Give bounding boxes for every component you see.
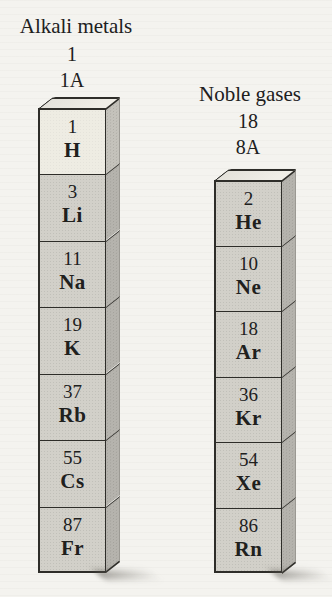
alkali-metals-title: Alkali metals [2, 14, 150, 39]
group-18-number: 18 [214, 109, 282, 134]
cell-side-face [106, 97, 120, 174]
element-cell-rb: 37 Rb [38, 374, 106, 440]
element-cell-na: 11 Na [38, 241, 106, 307]
element-cell-ne: 10 Ne [214, 246, 282, 312]
cell-side-face [106, 429, 120, 506]
element-cell-kr: 36 Kr [214, 377, 282, 443]
element-symbol: H [40, 138, 105, 163]
ground-shadow [270, 570, 332, 579]
element-cell-ar: 18 Ar [214, 311, 282, 377]
cell-side-face [106, 363, 120, 440]
atomic-number: 19 [40, 313, 105, 336]
element-symbol: Na [40, 270, 105, 295]
atomic-number: 55 [40, 446, 105, 469]
cell-side-face [282, 496, 296, 573]
element-symbol: Li [40, 203, 105, 228]
atomic-number: 2 [216, 187, 281, 210]
atomic-number: 54 [216, 448, 281, 471]
atomic-number: 86 [216, 514, 281, 537]
group-8a-label: 8A [214, 135, 282, 160]
group-1a-label: 1A [36, 68, 108, 93]
noble-gases-title: Noble gases [176, 82, 324, 107]
cell-side-face [106, 163, 120, 240]
cell-side-face [282, 300, 296, 377]
cell-side-face [106, 296, 120, 373]
atomic-number: 18 [216, 317, 281, 340]
element-symbol: Kr [216, 406, 281, 431]
element-cell-he: 2 He [214, 180, 282, 246]
element-symbol: He [216, 210, 281, 235]
element-symbol: Ar [216, 340, 281, 365]
alkali-metals-column: 1 H 3 Li 11 Na 19 K 37 Rb 55 Cs 87 Fr [38, 108, 106, 573]
group-1-number: 1 [36, 42, 108, 67]
element-cell-rn: 86 Rn [214, 508, 282, 574]
element-symbol: K [40, 336, 105, 361]
element-cell-li: 3 Li [38, 174, 106, 240]
atomic-number: 36 [216, 383, 281, 406]
atomic-number: 3 [40, 180, 105, 203]
atomic-number: 37 [40, 380, 105, 403]
element-cell-xe: 54 Xe [214, 442, 282, 508]
cell-side-face [106, 230, 120, 307]
element-cell-h: 1 H [38, 108, 106, 174]
element-cell-k: 19 K [38, 307, 106, 373]
element-symbol: Rn [216, 537, 281, 562]
ground-shadow [94, 570, 162, 579]
element-symbol: Ne [216, 275, 281, 300]
atomic-number: 87 [40, 513, 105, 536]
element-symbol: Cs [40, 469, 105, 494]
element-symbol: Rb [40, 403, 105, 428]
periodic-groups-figure: Alkali metals 1 1A Noble gases 18 8A 1 H… [0, 0, 332, 597]
atomic-number: 11 [40, 247, 105, 270]
element-cell-cs: 55 Cs [38, 440, 106, 506]
atomic-number: 1 [40, 115, 105, 138]
element-symbol: Xe [216, 471, 281, 496]
cell-side-face [282, 365, 296, 442]
element-symbol: Fr [40, 536, 105, 561]
cell-side-face [282, 431, 296, 508]
cell-side-face [282, 169, 296, 246]
element-cell-fr: 87 Fr [38, 507, 106, 573]
atomic-number: 10 [216, 252, 281, 275]
cell-side-face [282, 234, 296, 311]
cell-side-face [106, 496, 120, 573]
noble-gases-column: 2 He 10 Ne 18 Ar 36 Kr 54 Xe 86 Rn [214, 180, 282, 573]
